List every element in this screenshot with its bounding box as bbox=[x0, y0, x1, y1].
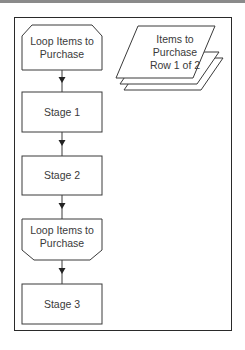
arrow-head-icon bbox=[59, 77, 66, 83]
loop-end-label-line2: Purchase bbox=[40, 237, 84, 250]
loop-end-label-line1: Loop Items to bbox=[30, 224, 94, 237]
collection-label: Items to Purchase Row 1 of 2 bbox=[140, 27, 210, 77]
stage-1-text: Stage 1 bbox=[44, 106, 80, 119]
stage-2-text: Stage 2 bbox=[44, 169, 80, 182]
loop-start-label-line1: Loop Items to bbox=[30, 35, 94, 48]
stage-2-label: Stage 2 bbox=[22, 156, 102, 195]
loop-start-label-line2: Purchase bbox=[40, 48, 84, 61]
arrow-head-icon bbox=[59, 203, 66, 209]
collection-label-line3: Row 1 of 2 bbox=[150, 59, 200, 72]
collection-label-line1: Items to bbox=[156, 33, 193, 46]
collection-label-line2: Purchase bbox=[153, 46, 197, 59]
loop-start-label: Loop Items to Purchase bbox=[22, 27, 102, 69]
arrow-head-icon bbox=[59, 268, 66, 274]
arrow-head-icon bbox=[59, 140, 66, 146]
stage-3-text: Stage 3 bbox=[44, 298, 80, 311]
stage-1-label: Stage 1 bbox=[22, 92, 102, 132]
loop-end-label: Loop Items to Purchase bbox=[22, 219, 102, 255]
stage-3-label: Stage 3 bbox=[22, 284, 102, 324]
